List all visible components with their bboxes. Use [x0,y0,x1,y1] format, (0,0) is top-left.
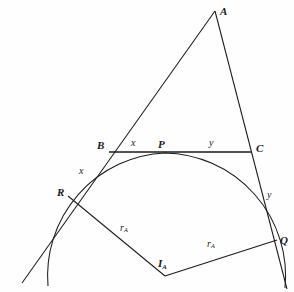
label-point-p: P [158,139,165,150]
label-segment-bp: x [131,138,135,148]
radius-right-subscript: A [211,242,215,249]
label-point-r: R [57,187,64,198]
line-ab-extended [22,11,215,283]
label-vertex-b: B [97,140,104,151]
label-vertex-c: C [256,143,263,154]
label-segment-pc: y [209,138,213,148]
line-ac-extended [215,11,287,289]
label-excenter-ia: IA [158,258,167,270]
label-vertex-a: A [220,6,227,17]
geometry-figure: A B C P Q R IA x x y y rA rA [0,0,294,292]
radius-ia-r [68,196,165,276]
excenter-subscript: A [162,263,167,270]
diagram-canvas [0,0,294,292]
label-radius-right: rA [207,239,215,250]
radius-ia-q [165,240,277,276]
label-segment-br: x [79,166,83,176]
radius-left-subscript: A [124,226,128,233]
label-segment-cq: y [267,190,271,200]
label-radius-left: rA [120,223,128,234]
label-point-q: Q [280,235,288,246]
